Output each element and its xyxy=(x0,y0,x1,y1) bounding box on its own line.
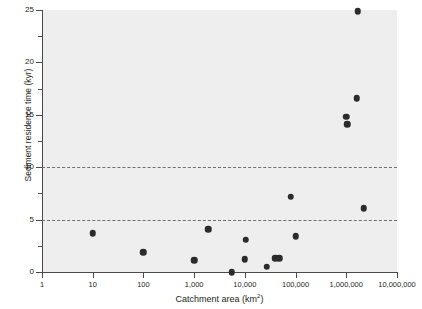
y-tick-label-0: 0 xyxy=(4,268,34,276)
x-axis-line xyxy=(42,272,398,273)
data-point xyxy=(140,249,147,256)
data-point xyxy=(89,230,96,237)
y-tick-minor-7.5 xyxy=(38,193,42,194)
x-tick-100 xyxy=(143,273,144,278)
x-tick-label-10000000: 10,000,000 xyxy=(378,281,416,289)
data-point xyxy=(276,255,283,262)
reference-line-y5 xyxy=(42,220,397,221)
scatter-chart-figure: 0510152025 1101001,00010,000100,0001,000… xyxy=(0,0,422,309)
y-axis-line xyxy=(42,10,43,273)
x-tick-100000 xyxy=(296,273,297,278)
y-tick-minor-12.5 xyxy=(38,141,42,142)
y-tick-15 xyxy=(36,115,42,116)
data-point xyxy=(243,236,250,243)
y-tick-minor-2.5 xyxy=(38,246,42,247)
x-tick-1000 xyxy=(194,273,195,278)
data-point xyxy=(228,269,235,276)
y-tick-label-5: 5 xyxy=(4,216,34,224)
x-tick-label-10000: 10,000 xyxy=(233,281,256,289)
x-tick-label-10: 10 xyxy=(89,281,97,289)
y-tick-10 xyxy=(36,167,42,168)
y-tick-label-25: 25 xyxy=(4,6,34,14)
x-tick-1 xyxy=(42,273,43,278)
data-point xyxy=(343,114,350,121)
x-tick-label-1000000: 1,000,000 xyxy=(330,281,363,289)
data-point xyxy=(205,226,212,233)
y-tick-minor-17.5 xyxy=(38,89,42,90)
data-point xyxy=(191,257,198,264)
data-point xyxy=(263,264,270,271)
x-tick-10000000 xyxy=(397,273,398,278)
y-tick-minor-22.5 xyxy=(38,36,42,37)
y-tick-20 xyxy=(36,62,42,63)
x-tick-label-1000: 1,000 xyxy=(185,281,204,289)
x-tick-1000000 xyxy=(346,273,347,278)
data-point xyxy=(242,256,249,263)
data-point xyxy=(292,233,299,240)
y-tick-5 xyxy=(36,220,42,221)
reference-line-y10 xyxy=(42,167,397,168)
data-point xyxy=(355,8,362,15)
data-point xyxy=(287,193,294,200)
x-tick-10000 xyxy=(245,273,246,278)
y-axis-title: Sediment residence time (kyr) xyxy=(23,35,33,215)
x-tick-label-100: 100 xyxy=(137,281,150,289)
data-point xyxy=(344,121,351,128)
x-tick-10 xyxy=(93,273,94,278)
data-point xyxy=(360,205,367,212)
data-point xyxy=(353,95,360,102)
x-tick-label-1: 1 xyxy=(40,281,44,289)
x-axis-title: Catchment area (km2) xyxy=(42,293,397,304)
y-tick-25 xyxy=(36,10,42,11)
x-tick-label-100000: 100,000 xyxy=(282,281,309,289)
